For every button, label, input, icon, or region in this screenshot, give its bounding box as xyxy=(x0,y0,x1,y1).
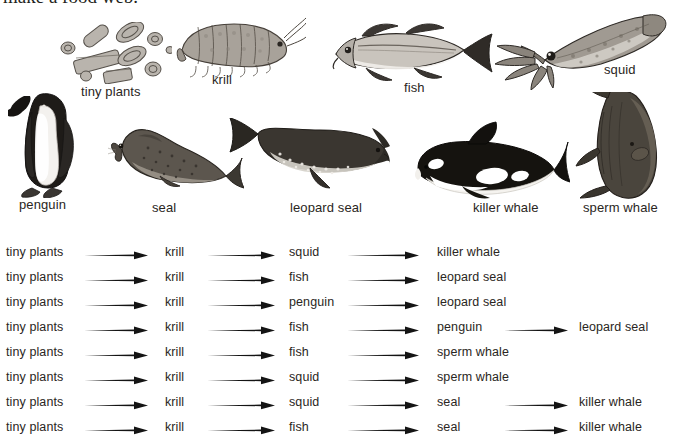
penguin-icon xyxy=(8,88,90,198)
chain-organism: tiny plants xyxy=(6,345,63,359)
caption-killer-whale: killer whale xyxy=(473,200,539,215)
arrow-icon xyxy=(207,301,275,310)
chain-organism: squid xyxy=(289,395,319,409)
chain-organism: tiny plants xyxy=(6,320,63,334)
chain-organism: tiny plants xyxy=(6,295,63,309)
seal-icon xyxy=(108,118,244,192)
arrow-icon xyxy=(84,401,148,410)
arrow-icon xyxy=(347,426,419,435)
arrow-icon xyxy=(84,326,148,335)
arrow-icon xyxy=(207,401,275,410)
caption-fish: fish xyxy=(404,80,425,95)
chain-organism: leopard seal xyxy=(437,295,506,309)
chain-organism: krill xyxy=(165,320,184,334)
leopard-seal-icon xyxy=(228,118,390,196)
chain-organism: squid xyxy=(289,245,319,259)
arrow-icon xyxy=(347,326,419,335)
arrow-icon xyxy=(347,351,419,360)
arrow-icon xyxy=(84,351,148,360)
caption-squid: squid xyxy=(604,62,636,77)
arrow-icon xyxy=(347,301,419,310)
phytoplankton-diatoms-icon xyxy=(52,22,172,84)
specimen-krill: krill xyxy=(176,16,306,96)
specimen-leopard-seal: leopard seal xyxy=(228,118,396,216)
chain-row: tiny plants krill fish penguin leopard s… xyxy=(0,316,676,341)
chain-organism: tiny plants xyxy=(6,395,63,409)
sperm-whale-icon xyxy=(570,92,670,210)
food-chain-list: tiny plants krill squid killer whale tin… xyxy=(0,241,676,441)
chain-organism: tiny plants xyxy=(6,420,63,434)
caption-sperm-whale: sperm whale xyxy=(583,200,658,215)
chain-organism: tiny plants xyxy=(6,270,63,284)
fish-icon xyxy=(322,20,494,86)
chain-organism: killer whale xyxy=(437,245,500,259)
chain-organism: fish xyxy=(289,270,309,284)
specimen-sperm-whale: sperm whale xyxy=(570,92,676,222)
chain-organism: tiny plants xyxy=(6,370,63,384)
chain-organism: fish xyxy=(289,420,309,434)
arrow-icon xyxy=(347,376,419,385)
killer-whale-icon xyxy=(406,120,570,200)
chain-organism: krill xyxy=(165,345,184,359)
caption-seal: seal xyxy=(152,200,176,215)
arrow-icon xyxy=(347,401,419,410)
chain-organism: killer whale xyxy=(579,395,642,409)
arrow-icon xyxy=(84,301,148,310)
chain-row: tiny plants krill squid seal killer whal… xyxy=(0,391,676,416)
arrow-icon xyxy=(84,376,148,385)
arrow-icon xyxy=(504,426,568,435)
caption-penguin: penguin xyxy=(19,197,66,212)
chain-row: tiny plants krill fish leopard seal xyxy=(0,266,676,291)
chain-organism: seal xyxy=(437,395,460,409)
specimen-fish: fish xyxy=(322,20,494,100)
caption-krill: krill xyxy=(212,72,232,87)
chain-organism: krill xyxy=(165,245,184,259)
arrow-icon xyxy=(347,251,419,260)
chain-organism: krill xyxy=(165,270,184,284)
arrow-icon xyxy=(84,251,148,260)
squid-icon xyxy=(493,12,669,90)
organism-gallery: tiny plants xyxy=(0,0,676,238)
chain-organism: penguin xyxy=(289,295,334,309)
chain-row: tiny plants krill fish sperm whale xyxy=(0,341,676,366)
chain-organism: seal xyxy=(437,420,460,434)
chain-organism: krill xyxy=(165,420,184,434)
chain-organism: killer whale xyxy=(579,420,642,434)
arrow-icon xyxy=(84,426,148,435)
krill-icon xyxy=(176,16,306,78)
arrow-icon xyxy=(207,351,275,360)
arrow-icon xyxy=(207,426,275,435)
arrow-icon xyxy=(84,276,148,285)
arrow-icon xyxy=(504,401,568,410)
chain-organism: krill xyxy=(165,295,184,309)
specimen-killer-whale: killer whale xyxy=(406,120,576,215)
specimen-tiny-plants: tiny plants xyxy=(52,22,172,94)
chain-row: tiny plants krill squid killer whale xyxy=(0,241,676,266)
chain-organism: krill xyxy=(165,370,184,384)
arrow-icon xyxy=(347,276,419,285)
chain-organism: penguin xyxy=(437,320,482,334)
chain-organism: fish xyxy=(289,320,309,334)
chain-organism: sperm whale xyxy=(437,345,509,359)
arrow-icon xyxy=(207,326,275,335)
chain-organism: krill xyxy=(165,395,184,409)
chain-organism: leopard seal xyxy=(437,270,506,284)
specimen-seal: seal xyxy=(108,118,248,213)
chain-organism: squid xyxy=(289,370,319,384)
chain-organism: tiny plants xyxy=(6,245,63,259)
arrow-icon xyxy=(207,276,275,285)
chain-organism: fish xyxy=(289,345,309,359)
caption-leopard-seal: leopard seal xyxy=(290,200,362,215)
arrow-icon xyxy=(207,251,275,260)
chain-row: tiny plants krill fish seal killer whale xyxy=(0,416,676,441)
arrow-icon xyxy=(504,326,568,335)
specimen-squid: squid xyxy=(493,12,673,102)
specimen-penguin: penguin xyxy=(8,88,108,213)
chain-row: tiny plants krill squid sperm whale xyxy=(0,366,676,391)
chain-row: tiny plants krill penguin leopard seal xyxy=(0,291,676,316)
chain-organism: leopard seal xyxy=(579,320,648,334)
chain-organism: sperm whale xyxy=(437,370,509,384)
arrow-icon xyxy=(207,376,275,385)
